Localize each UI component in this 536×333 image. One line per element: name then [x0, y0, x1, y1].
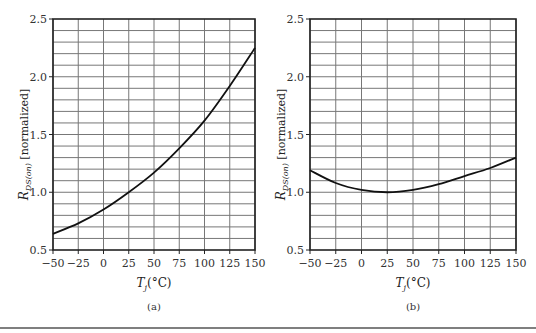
y-tick-label: 2.0 — [30, 71, 48, 84]
chart-panel-b: −50−2502550751001251500.51.01.52.02.5Tj(… — [274, 13, 527, 312]
y-axis-label: RDS(on) [normalized] — [17, 89, 33, 202]
x-tick-label: 125 — [480, 257, 501, 270]
x-tick-label: 100 — [454, 257, 475, 270]
x-tick-label: 75 — [172, 257, 186, 270]
x-tick-label: −50 — [298, 257, 321, 270]
x-tick-label: 150 — [245, 257, 266, 270]
x-tick-label: 25 — [122, 257, 136, 270]
x-tick-label: 150 — [506, 257, 527, 270]
figure: −50−2502550751001251500.51.01.52.02.5Tj(… — [0, 0, 536, 333]
x-tick-label: −25 — [67, 257, 90, 270]
y-tick-label: 1.5 — [30, 129, 48, 142]
chart-panel-a: −50−2502550751001251500.51.01.52.02.5Tj(… — [17, 13, 266, 312]
x-tick-label: 0 — [100, 257, 107, 270]
x-tick-label: 100 — [194, 257, 215, 270]
x-tick-label: −25 — [324, 257, 347, 270]
x-tick-label: 125 — [219, 257, 240, 270]
x-tick-label: 75 — [432, 257, 446, 270]
y-axis-label: RDS(on) [normalized] — [274, 89, 290, 202]
x-tick-label: 0 — [358, 257, 365, 270]
x-tick-label: −50 — [41, 257, 64, 270]
y-tick-label: 2.0 — [287, 71, 305, 84]
panel-caption: (b) — [406, 301, 420, 312]
y-tick-label: 0.5 — [287, 244, 305, 257]
y-tick-label: 2.5 — [287, 13, 305, 26]
y-tick-label: 1.5 — [287, 129, 305, 142]
x-tick-label: 50 — [406, 257, 420, 270]
y-tick-label: 0.5 — [30, 244, 48, 257]
x-tick-label: 25 — [380, 257, 394, 270]
x-tick-label: 50 — [147, 257, 161, 270]
x-axis-label: Tj(°C) — [395, 276, 430, 292]
x-axis-label: Tj(°C) — [136, 276, 171, 292]
y-tick-label: 2.5 — [30, 13, 48, 26]
panel-caption: (a) — [147, 301, 161, 312]
